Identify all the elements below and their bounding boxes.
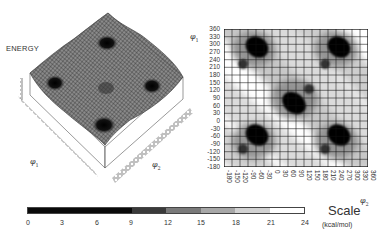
colorbar-band-15-18 bbox=[201, 208, 236, 213]
colorbar-tick: 18 bbox=[232, 219, 240, 226]
x-tick: -180 bbox=[226, 170, 232, 183]
colorbar-band-0-9 bbox=[28, 208, 132, 213]
colorbar-band-21-24 bbox=[270, 208, 305, 213]
colorbar-tick: 3 bbox=[60, 219, 64, 226]
x-tick: 210 bbox=[330, 170, 336, 181]
phi1-axis-label-3d: φ1 bbox=[30, 157, 39, 168]
y-axis-ticks: 360 330 300 270 240 210 180 150 120 90 6… bbox=[198, 26, 222, 171]
colorbar-band-18-21 bbox=[235, 208, 270, 213]
x-tick: -150 bbox=[234, 170, 240, 183]
y-tick: -180 bbox=[198, 164, 220, 172]
energy-surface-3d bbox=[0, 0, 200, 200]
colorbar-tick: 9 bbox=[129, 219, 133, 226]
x-tick: 120 bbox=[306, 170, 312, 181]
colorbar-band-12-15 bbox=[166, 208, 201, 213]
colorbar-tick: 21 bbox=[267, 219, 275, 226]
x-tick: 150 bbox=[314, 170, 320, 181]
phi2-axis-label-3d: φ2 bbox=[152, 160, 161, 171]
colorbar-tick: 24 bbox=[301, 219, 309, 226]
x-tick: -90 bbox=[250, 170, 256, 179]
x-tick: 60 bbox=[290, 170, 296, 177]
colorbar-tick: 15 bbox=[197, 219, 205, 226]
x-tick: 330 bbox=[362, 170, 368, 181]
x-tick: 0 bbox=[274, 170, 280, 174]
x-tick: 180 bbox=[322, 170, 328, 181]
x-tick: 270 bbox=[346, 170, 352, 181]
x-tick: 90 bbox=[298, 170, 304, 177]
colorbar-title: Scale bbox=[328, 203, 361, 218]
colorbar-unit: (kcal/mol) bbox=[322, 221, 352, 228]
x-tick: -120 bbox=[242, 170, 248, 183]
phi2-axis-label-map: φ2 bbox=[360, 196, 369, 207]
x-tick: -30 bbox=[266, 170, 272, 179]
x-tick: 300 bbox=[354, 170, 360, 181]
x-tick: -60 bbox=[258, 170, 264, 179]
colorbar-tick: 0 bbox=[26, 219, 30, 226]
x-tick: 30 bbox=[282, 170, 288, 177]
colorbar bbox=[27, 207, 305, 214]
x-tick: 240 bbox=[338, 170, 344, 181]
colorbar-band-9-12 bbox=[132, 208, 167, 213]
colorbar-tick: 6 bbox=[95, 219, 99, 226]
x-tick: 360 bbox=[370, 170, 376, 181]
contour-map bbox=[224, 29, 369, 168]
colorbar-tick: 12 bbox=[164, 219, 172, 226]
